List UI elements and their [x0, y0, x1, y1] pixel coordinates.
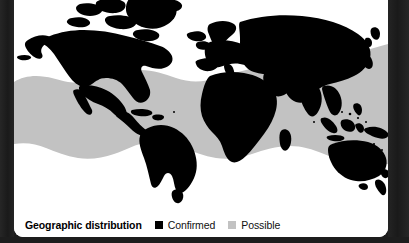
island-dot-c [365, 121, 367, 123]
new-zealand-south [375, 179, 386, 195]
island-dot-f [341, 111, 343, 113]
island-dot-b [357, 117, 359, 119]
aleutians [17, 55, 31, 60]
arctic-islands-e [67, 17, 90, 27]
island-dot-a [349, 113, 352, 116]
legend-item-possible[interactable]: Possible [228, 219, 280, 231]
map-legend: Geographic distribution Confirmed Possib… [14, 212, 388, 237]
kamchatka [371, 27, 380, 39]
world-map[interactable] [14, 0, 388, 212]
world-map-svg [14, 0, 388, 212]
frame-border-right [388, 0, 409, 243]
legend-label-possible: Possible [241, 219, 280, 231]
possible-swatch [228, 221, 236, 229]
alaska-peninsula [25, 35, 50, 59]
madagascar [279, 129, 291, 150]
frame-border-left [0, 0, 14, 243]
confirmed-swatch [155, 221, 163, 229]
legend-item-confirmed[interactable]: Confirmed [155, 219, 216, 231]
caribbean-hispaniola [152, 115, 164, 121]
island-dot-d [373, 143, 375, 145]
frame-border-bottom [0, 237, 409, 243]
legend-title: Geographic distribution [25, 219, 142, 231]
island-dot-h [173, 111, 175, 113]
island-dot-e [381, 149, 383, 151]
map-card: Geographic distribution Confirmed Possib… [14, 0, 388, 237]
south-america-south-tip [172, 189, 184, 203]
tasmania [359, 183, 368, 190]
iceland [187, 31, 206, 41]
screenshot-root: Geographic distribution Confirmed Possib… [0, 0, 409, 243]
new-zealand-north [381, 169, 389, 178]
legend-label-confirmed: Confirmed [168, 219, 216, 231]
island-dot-g [313, 121, 315, 123]
iberia [196, 58, 218, 71]
